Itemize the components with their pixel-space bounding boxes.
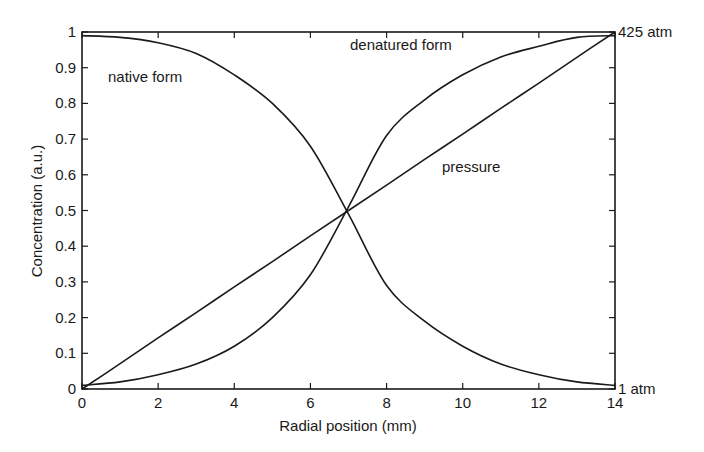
y-tick-label: 0.1 xyxy=(55,344,76,361)
y-tick-label: 0.3 xyxy=(55,273,76,290)
y-tick-label: 1 xyxy=(68,23,76,40)
x-tick-label: 8 xyxy=(382,394,390,411)
x-tick-label: 4 xyxy=(230,394,238,411)
y-tick-label: 0.8 xyxy=(55,94,76,111)
native-form-label: native form xyxy=(108,68,182,85)
y-tick-label: 0.5 xyxy=(55,202,76,219)
y-tick-label: 0.4 xyxy=(55,237,76,254)
data-curves xyxy=(82,32,615,389)
y-tick-label: 0.9 xyxy=(55,59,76,76)
y-tick-label: 0.7 xyxy=(55,130,76,147)
x-tick-label: 6 xyxy=(306,394,314,411)
x-tick-label: 10 xyxy=(454,394,471,411)
pressure-label: pressure xyxy=(442,158,500,175)
y-tick-label: 0 xyxy=(68,380,76,397)
x-tick-label: 12 xyxy=(531,394,548,411)
pressure-curve xyxy=(82,32,615,389)
right-axis-top-label: 425 atm xyxy=(618,23,672,40)
y-axis-title: Concentration (a.u.) xyxy=(28,145,45,278)
right-axis-bottom-label: 1 atm xyxy=(618,380,656,397)
x-tick-label: 2 xyxy=(154,394,162,411)
x-axis-title: Radial position (mm) xyxy=(279,417,417,434)
x-tick-label: 0 xyxy=(78,394,86,411)
y-tick-label: 0.6 xyxy=(55,166,76,183)
concentration-chart: 0246810121400.10.20.30.40.50.60.70.80.91… xyxy=(0,0,704,452)
denatured-form-label: denatured form xyxy=(350,36,452,53)
y-tick-label: 0.2 xyxy=(55,309,76,326)
